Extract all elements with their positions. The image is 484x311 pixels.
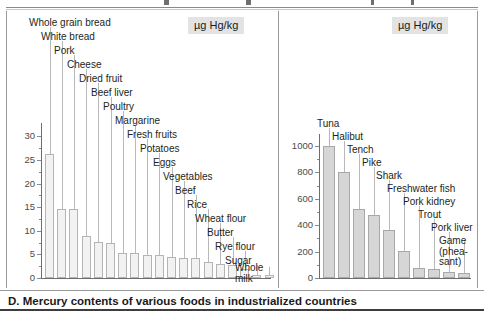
callout-label: Wholemilk (235, 263, 279, 284)
callout-label: Pork kidney (403, 197, 455, 208)
leader-line (111, 97, 112, 243)
bar-pork-kidney (413, 268, 425, 278)
callout-label: Shark (376, 171, 402, 182)
callout-label: Beef (175, 186, 196, 197)
y-tick-label: 400 (289, 220, 313, 230)
leader-line (344, 141, 345, 172)
y-tick-major (37, 184, 41, 185)
bar-tench (353, 209, 365, 278)
callout-label: Wheat flour (195, 214, 246, 225)
bar-eggs (167, 257, 176, 278)
y-tick-minor (317, 212, 319, 213)
bar-poultry (118, 253, 127, 278)
y-tick-minor (39, 172, 41, 173)
callout-label: Poultry (103, 102, 134, 113)
callout-label: Fresh fruits (127, 130, 177, 141)
top-descender-glyph-2 (246, 0, 251, 5)
y-tick-label: 1000 (289, 141, 313, 151)
y-tick-label: 30 (21, 131, 35, 141)
callout-label: Whole grain bread (29, 18, 111, 29)
charts-container: µg Hg/kg 051015202530Whole grain breadWh… (6, 11, 478, 288)
y-axis-line (319, 134, 320, 279)
leader-line (50, 27, 51, 154)
bar-cheese (82, 236, 91, 278)
callout-label: Dried fruit (79, 74, 122, 85)
callout-label: Pork (54, 46, 75, 57)
bar-rice (204, 262, 213, 278)
bar-tuna (323, 146, 335, 278)
bar-shark (383, 230, 395, 278)
plot-area-foods: 051015202530Whole grain breadWhite bread… (7, 11, 273, 288)
bar-beef-liver (106, 243, 115, 278)
y-tick-label: 10 (21, 226, 35, 236)
y-tick-major (37, 254, 41, 255)
y-tick-label: 5 (21, 249, 35, 259)
leader-line (359, 154, 360, 209)
leader-line (147, 139, 148, 255)
y-tick-major (315, 225, 319, 226)
callout-label: Pike (362, 158, 381, 169)
callout-label-line: Whole (235, 263, 279, 274)
y-tick-minor (317, 159, 319, 160)
bar-halibut (338, 172, 350, 278)
callout-label: Margarine (115, 116, 160, 127)
callout-label: Freshwater fish (387, 184, 455, 195)
top-descender-glyph-4 (411, 0, 414, 5)
y-tick-major (37, 160, 41, 161)
bar-white-bread (57, 209, 66, 278)
callout-label: Tuna (317, 119, 339, 130)
callout-label: Pork liver (431, 223, 473, 234)
bar-pike (368, 215, 380, 278)
bar-beef (191, 258, 200, 278)
bar-potatoes (155, 255, 164, 278)
y-tick-minor (317, 186, 319, 187)
callout-label: Butter (207, 228, 234, 239)
y-tick-minor (39, 266, 41, 267)
chart-panel-fish: µg Hg/kg 02004006008001000TunaHalibutTen… (278, 11, 478, 288)
callout-label: Potatoes (140, 144, 179, 155)
callout-label: Beef liver (91, 88, 133, 99)
y-tick-major (37, 278, 41, 279)
callout-label: Game(phea-sant) (439, 236, 483, 268)
y-tick-label: 600 (289, 194, 313, 204)
y-tick-label: 25 (21, 155, 35, 165)
callout-label-line: milk (235, 274, 279, 285)
bar-freshwater-fish (398, 251, 410, 278)
y-tick-minor (317, 238, 319, 239)
y-tick-major (315, 252, 319, 253)
callout-label: Rye flour (215, 242, 255, 253)
leader-line (374, 167, 375, 215)
figure-caption: D. Mercury contents of various foods in … (8, 295, 357, 307)
y-tick-minor (317, 265, 319, 266)
bar-pork (69, 209, 78, 278)
y-tick-label: 0 (21, 273, 35, 283)
y-tick-label: 20 (21, 179, 35, 189)
y-tick-major (37, 136, 41, 137)
bar-pork-liver (443, 272, 455, 278)
callout-label: Cheese (67, 60, 101, 71)
y-tick-minor (39, 243, 41, 244)
x-axis-line (319, 278, 471, 279)
plot-area-fish: 02004006008001000TunaHalibutTenchPikeSha… (279, 11, 479, 288)
bar-dried-fruit (94, 242, 103, 278)
leader-line (329, 128, 330, 146)
y-tick-major (37, 207, 41, 208)
y-tick-minor (39, 148, 41, 149)
leader-line (62, 41, 63, 209)
bar-game-pheasant (458, 273, 470, 278)
bar-trout (428, 269, 440, 278)
bar-wheat-flour (216, 264, 225, 278)
leader-line (98, 83, 99, 242)
top-divider-rule (6, 7, 478, 8)
chart-panel-foods: µg Hg/kg 051015202530Whole grain breadWh… (6, 11, 272, 288)
y-tick-label: 15 (21, 202, 35, 212)
bar-margarine (130, 253, 139, 278)
callout-label: White bread (41, 32, 95, 43)
caption-bar: D. Mercury contents of various foods in … (0, 290, 484, 311)
y-tick-major (37, 231, 41, 232)
callout-label: Rice (187, 200, 207, 211)
y-tick-label: 800 (289, 167, 313, 177)
leader-line (86, 69, 87, 236)
y-tick-label: 200 (289, 247, 313, 257)
y-tick-minor (39, 195, 41, 196)
